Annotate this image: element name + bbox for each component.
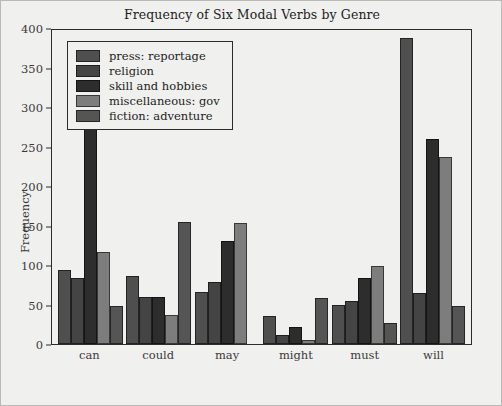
bar bbox=[289, 327, 302, 344]
bar bbox=[234, 223, 247, 344]
bar bbox=[452, 306, 465, 344]
bar bbox=[358, 278, 371, 344]
bar-group-might bbox=[263, 30, 328, 344]
bar bbox=[221, 241, 234, 344]
bar bbox=[110, 306, 123, 344]
x-tick-label-can: can bbox=[57, 346, 122, 370]
bar bbox=[84, 128, 97, 344]
bar bbox=[302, 340, 315, 344]
bar bbox=[263, 316, 276, 344]
bar bbox=[384, 323, 397, 344]
legend-item[interactable]: fiction: adventure bbox=[76, 108, 220, 123]
bar bbox=[332, 305, 345, 345]
legend-swatch-icon bbox=[76, 80, 100, 92]
bar bbox=[426, 139, 439, 344]
bar bbox=[400, 38, 413, 344]
bar bbox=[345, 301, 358, 344]
y-tick-label: 400 bbox=[21, 22, 43, 36]
bar bbox=[413, 293, 426, 344]
legend-label: press: reportage bbox=[109, 49, 206, 63]
chart-legend[interactable]: press: reportagereligionskill and hobbie… bbox=[67, 41, 233, 130]
legend-item[interactable]: skill and hobbies bbox=[76, 78, 220, 93]
legend-swatch-icon bbox=[76, 110, 100, 122]
bar bbox=[139, 297, 152, 344]
x-tick-label-will: will bbox=[401, 346, 466, 370]
bar bbox=[276, 335, 289, 344]
bar bbox=[71, 278, 84, 344]
bar bbox=[97, 252, 110, 344]
y-tick-label: 0 bbox=[36, 338, 43, 352]
bar-group-will bbox=[400, 30, 465, 344]
x-tick-label-must: must bbox=[332, 346, 397, 370]
chart-title: Frequency of Six Modal Verbs by Genre bbox=[1, 7, 502, 22]
legend-label: religion bbox=[109, 64, 154, 78]
bar bbox=[439, 157, 452, 344]
bar bbox=[195, 292, 208, 344]
chart-figure: Frequency of Six Modal Verbs by Genre Fr… bbox=[0, 0, 502, 406]
y-tick-label: 300 bbox=[21, 101, 43, 115]
bar bbox=[315, 298, 328, 344]
x-tick-label-could: could bbox=[126, 346, 191, 370]
y-tick-label: 50 bbox=[28, 299, 43, 313]
y-tick-label: 150 bbox=[21, 220, 43, 234]
legend-label: fiction: adventure bbox=[109, 109, 213, 123]
y-axis: Frequency 050100150200250300350400 bbox=[1, 29, 51, 345]
x-axis: cancouldmaymightmustwill bbox=[51, 346, 472, 370]
y-tick-label: 200 bbox=[21, 180, 43, 194]
y-tick-label: 250 bbox=[21, 141, 43, 155]
bar bbox=[208, 282, 221, 344]
legend-item[interactable]: miscellaneous: gov bbox=[76, 93, 220, 108]
bar bbox=[165, 315, 178, 344]
legend-label: skill and hobbies bbox=[109, 79, 207, 93]
y-tick-label: 100 bbox=[21, 259, 43, 273]
x-tick-label-may: may bbox=[195, 346, 260, 370]
x-tick-label-might: might bbox=[263, 346, 328, 370]
legend-swatch-icon bbox=[76, 65, 100, 77]
bar-group-must bbox=[332, 30, 397, 344]
legend-item[interactable]: religion bbox=[76, 63, 220, 78]
legend-item[interactable]: press: reportage bbox=[76, 48, 220, 63]
legend-swatch-icon bbox=[76, 95, 100, 107]
legend-swatch-icon bbox=[76, 50, 100, 62]
bar bbox=[152, 297, 165, 344]
legend-label: miscellaneous: gov bbox=[109, 94, 220, 108]
bar bbox=[126, 276, 139, 344]
bar bbox=[371, 266, 384, 344]
y-tick-label: 350 bbox=[21, 62, 43, 76]
bar bbox=[58, 270, 71, 344]
bar bbox=[178, 222, 191, 344]
